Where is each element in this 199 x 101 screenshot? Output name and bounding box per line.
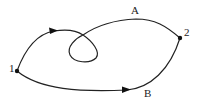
arrowhead-a-icon (49, 28, 58, 35)
path-a (17, 19, 180, 71)
path-b-label: B (144, 87, 151, 99)
arrowhead-b-icon (122, 87, 131, 94)
node-1 (15, 69, 19, 73)
node-1-label: 1 (9, 62, 15, 74)
node-2-label: 2 (184, 26, 190, 38)
path-diagram: 1 2 A B (0, 0, 199, 101)
path-a-label: A (131, 4, 139, 16)
node-2 (178, 36, 182, 40)
path-b (17, 38, 180, 91)
